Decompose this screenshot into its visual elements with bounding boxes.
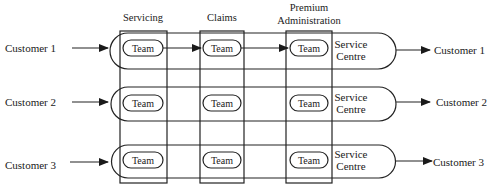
team-label: Team [298,155,320,166]
service-centre-label: Service [335,38,368,50]
service-centre-label: Service [335,148,368,160]
team-label: Team [211,43,233,54]
team-label: Team [298,43,320,54]
team-label: Team [132,155,154,166]
column-header-servicing: Servicing [123,12,164,23]
service-centre-label: Service [335,91,368,103]
row-customer-1: Customer 1 Team Team Team Service Centre… [5,33,485,69]
row-customer-3: Customer 3 Team Team Team Service Centre… [5,145,485,178]
team-label: Team [132,98,154,109]
team-label: Team [298,98,320,109]
output-customer-label: Customer 2 [436,96,487,108]
team-label: Team [211,155,233,166]
service-centre-label: Centre [336,160,365,172]
column-header-claims: Claims [207,12,237,23]
team-label: Team [211,98,233,109]
column-header-administration: Administration [277,15,341,26]
row-customer-2: Customer 2 Team Team Team Service Centre… [5,87,487,121]
column-header-premium: Premium [290,2,329,13]
input-customer-label: Customer 2 [5,96,56,108]
output-customer-label: Customer 1 [434,44,485,56]
input-customer-label: Customer 3 [5,159,57,171]
output-customer-label: Customer 3 [433,156,485,168]
service-centre-label: Centre [336,103,365,115]
team-label: Team [132,43,154,54]
input-customer-label: Customer 1 [5,42,56,54]
service-centre-label: Centre [336,50,365,62]
service-flow-diagram: Servicing Claims Premium Administration … [0,0,490,195]
